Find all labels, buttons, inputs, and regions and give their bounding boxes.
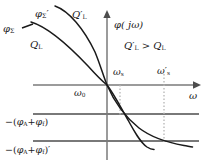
label-level-line-1: −(φA+φf) bbox=[5, 117, 48, 128]
label-vertical-axis: φ( jω) bbox=[114, 20, 143, 30]
label-q-low: QL bbox=[30, 40, 42, 51]
leader-line-phi-sigma bbox=[22, 24, 33, 28]
label-inequality: Q′L > QL bbox=[124, 41, 166, 52]
label-omega-zero: ω0 bbox=[74, 88, 86, 99]
label-horizontal-axis: ω bbox=[189, 91, 197, 101]
phi-axis-arrowhead bbox=[103, 10, 110, 18]
label-q-high: Q′L bbox=[72, 10, 87, 21]
omega-axis-arrowhead bbox=[193, 81, 201, 88]
label-omega-s-prime: ω′s bbox=[157, 66, 170, 77]
label-level-line-2: −(φA+φf)′ bbox=[5, 145, 50, 156]
figure-canvas bbox=[0, 0, 205, 164]
phase-frequency-response-figure: φΣ φΣ′ Q′L QL φ( jω) Q′L > QL ωs ω′s ω0 … bbox=[0, 0, 205, 164]
label-omega-s: ωs bbox=[113, 67, 124, 78]
label-phi-sigma: φΣ bbox=[3, 24, 14, 35]
label-phi-sigma-prime: φΣ′ bbox=[35, 9, 49, 20]
